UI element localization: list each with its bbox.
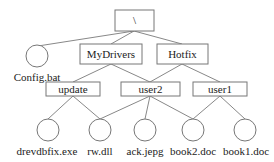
dir-label: MyDrivers (87, 48, 135, 60)
file-label: rw.dll (87, 145, 112, 157)
file-label: ack.jepg (127, 145, 164, 157)
file-label: book2.doc (170, 145, 216, 157)
dir-node-mydrivers: MyDrivers (80, 44, 142, 64)
file-node-config-bat: Config.bat (14, 45, 61, 83)
directory-tree-diagram: \ Config.bat MyDrivers Hotfix update use… (0, 0, 274, 162)
dir-node-user2: user2 (121, 82, 180, 96)
file-label: book1.doc (223, 145, 269, 157)
file-node-rw-dll: rw.dll (87, 119, 112, 157)
dir-node-user1: user1 (193, 82, 247, 96)
dir-label: user2 (139, 83, 163, 95)
dir-label: user1 (208, 83, 232, 95)
dir-node-update: update (46, 82, 100, 96)
dir-label: Hotfix (168, 48, 197, 60)
file-node-book2-doc: book2.doc (170, 119, 216, 157)
root-directory-node: \ (115, 10, 154, 31)
dir-label: update (58, 83, 87, 95)
file-node-book1-doc: book1.doc (223, 119, 269, 157)
file-node-ack-jepg: ack.jepg (127, 119, 164, 157)
file-label: drevdbfix.exe (17, 145, 78, 157)
dir-node-hotfix: Hotfix (157, 44, 208, 64)
file-node-drevdbfix: drevdbfix.exe (17, 119, 78, 157)
file-label: Config.bat (14, 71, 61, 83)
